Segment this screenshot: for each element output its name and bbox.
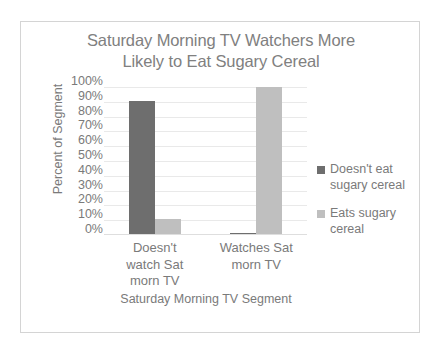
x-axis-line bbox=[104, 234, 307, 235]
x-axis-category-label: Doesn'twatch Satmorn TV bbox=[104, 240, 206, 290]
chart-title-line-2: Likely to Eat Sugary Cereal bbox=[33, 51, 409, 72]
bar bbox=[230, 233, 256, 235]
chart-title: Saturday Morning TV Watchers More Likely… bbox=[33, 30, 409, 72]
legend-label: Eats sugary bbox=[330, 206, 417, 222]
y-axis-tick-label: 60% bbox=[59, 134, 103, 146]
y-axis-tick-label: 30% bbox=[59, 179, 103, 191]
y-axis-tick-label: 100% bbox=[59, 75, 103, 87]
chart-container: Saturday Morning TV Watchers More Likely… bbox=[20, 21, 420, 333]
legend-entry[interactable]: Eats sugarycereal bbox=[317, 206, 417, 237]
chart-legend: Doesn't eatsugary cerealEats sugarycerea… bbox=[317, 162, 417, 250]
x-axis-category-label-line: Doesn't bbox=[104, 240, 206, 257]
y-axis-tick-label: 40% bbox=[59, 164, 103, 176]
x-axis-category-label-line: watch Sat bbox=[104, 257, 206, 274]
bar bbox=[129, 101, 155, 234]
x-axis-category-label-line: morn TV bbox=[206, 257, 308, 274]
legend-label: Doesn't eat bbox=[330, 162, 417, 178]
legend-label: cereal bbox=[330, 222, 417, 238]
y-axis-tick-labels: 100%90%80%70%60%50%40%30%20%10%0% bbox=[59, 81, 103, 229]
bar bbox=[256, 87, 282, 234]
y-axis-tick-label: 90% bbox=[59, 90, 103, 102]
y-axis-tick-label: 80% bbox=[59, 105, 103, 117]
y-axis-tick-label: 50% bbox=[59, 149, 103, 161]
chart-title-line-1: Saturday Morning TV Watchers More bbox=[87, 31, 355, 49]
y-axis-tick-label: 10% bbox=[59, 208, 103, 220]
plot-area bbox=[104, 87, 307, 235]
legend-swatch-icon bbox=[317, 166, 325, 174]
y-axis-tick-label: 20% bbox=[59, 193, 103, 205]
y-axis-tick-label: 0% bbox=[59, 223, 103, 235]
x-axis-category-label: Watches Satmorn TV bbox=[206, 240, 308, 273]
x-axis-title: Saturday Morning TV Segment bbox=[51, 292, 361, 306]
y-axis-tick-label: 70% bbox=[59, 119, 103, 131]
legend-label: sugary cereal bbox=[330, 178, 417, 194]
x-axis-category-labels: Doesn'twatch Satmorn TVWatches Satmorn T… bbox=[104, 240, 307, 296]
x-axis-category-label-line: Watches Sat bbox=[206, 240, 308, 257]
x-axis-category-label-line: morn TV bbox=[104, 273, 206, 290]
bar bbox=[155, 219, 181, 234]
legend-entry[interactable]: Doesn't eatsugary cereal bbox=[317, 162, 417, 193]
legend-swatch-icon bbox=[317, 210, 325, 218]
